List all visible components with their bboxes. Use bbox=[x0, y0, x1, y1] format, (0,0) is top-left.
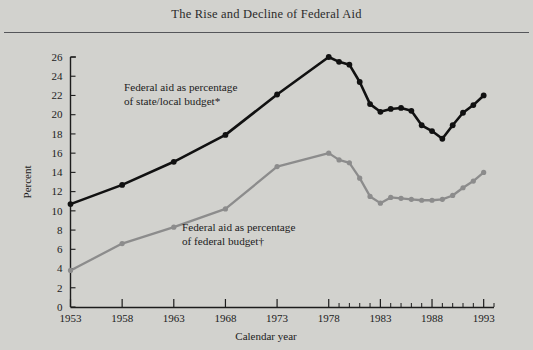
data-point bbox=[450, 122, 456, 128]
data-point bbox=[120, 241, 125, 246]
data-point bbox=[378, 201, 383, 206]
y-tick-label: 4 bbox=[57, 262, 63, 274]
data-point bbox=[223, 132, 229, 138]
annotation-state-local-line1: Federal aid as percentage bbox=[124, 81, 237, 93]
y-tick-label: 16 bbox=[52, 147, 64, 159]
x-tick-label: 1978 bbox=[318, 312, 341, 324]
data-point bbox=[440, 197, 445, 202]
data-point bbox=[388, 106, 394, 112]
data-point bbox=[119, 182, 125, 188]
annotation-federal-line1: Federal aid as percentage bbox=[182, 221, 295, 233]
data-point bbox=[460, 185, 465, 190]
data-point bbox=[223, 206, 228, 211]
x-tick-label: 1988 bbox=[421, 312, 444, 324]
data-point bbox=[429, 128, 435, 134]
x-tick-label: 1958 bbox=[111, 312, 134, 324]
chart-plot-area: 02468101214161820222426 1953195819631968… bbox=[0, 0, 533, 350]
data-point bbox=[274, 92, 280, 98]
data-point bbox=[471, 178, 476, 183]
y-tick-label: 0 bbox=[57, 301, 63, 313]
data-point bbox=[398, 196, 403, 201]
annotation-state-local-line2: of state/local budget* bbox=[124, 95, 221, 107]
data-point bbox=[377, 109, 383, 115]
data-point bbox=[481, 93, 487, 99]
data-point bbox=[398, 105, 404, 111]
data-point bbox=[347, 160, 352, 165]
data-point bbox=[367, 194, 372, 199]
data-point bbox=[460, 110, 466, 116]
y-tick-label: 12 bbox=[52, 185, 63, 197]
data-point bbox=[367, 101, 373, 107]
y-tick-label: 10 bbox=[52, 205, 64, 217]
data-point bbox=[409, 197, 414, 202]
data-point bbox=[346, 62, 352, 68]
data-point bbox=[419, 122, 425, 128]
x-tick-label: 1963 bbox=[163, 312, 186, 324]
x-axis-ticks bbox=[71, 299, 495, 307]
data-point bbox=[408, 108, 414, 114]
x-axis-tick-labels: 195319581963196819731978198319881993 bbox=[60, 312, 496, 324]
data-point bbox=[68, 201, 74, 207]
y-tick-label: 26 bbox=[52, 51, 64, 63]
data-point bbox=[326, 54, 332, 60]
data-point bbox=[388, 195, 393, 200]
data-point bbox=[481, 170, 486, 175]
data-point bbox=[419, 198, 424, 203]
y-axis-title: Percent bbox=[21, 166, 33, 199]
x-axis-title: Calendar year bbox=[235, 330, 297, 342]
figure-container: The Rise and Decline of Federal Aid 0246… bbox=[0, 0, 533, 350]
y-tick-label: 14 bbox=[52, 166, 64, 178]
y-tick-label: 2 bbox=[57, 282, 63, 294]
x-tick-label: 1993 bbox=[473, 312, 496, 324]
data-point bbox=[274, 164, 279, 169]
series-line bbox=[71, 153, 484, 270]
x-tick-label: 1953 bbox=[60, 312, 83, 324]
data-point bbox=[357, 79, 363, 85]
data-point bbox=[336, 59, 342, 65]
y-tick-label: 20 bbox=[52, 108, 64, 120]
y-tick-label: 18 bbox=[52, 128, 64, 140]
annotation-federal-line2: of federal budget† bbox=[182, 235, 264, 247]
series-federal bbox=[68, 151, 486, 274]
data-point bbox=[439, 136, 445, 142]
y-tick-label: 24 bbox=[52, 70, 64, 82]
data-point bbox=[429, 198, 434, 203]
data-point bbox=[171, 225, 176, 230]
x-tick-label: 1968 bbox=[214, 312, 237, 324]
y-axis-tick-labels: 02468101214161820222426 bbox=[52, 51, 64, 313]
y-tick-label: 8 bbox=[57, 224, 63, 236]
data-point bbox=[336, 157, 341, 162]
x-tick-label: 1973 bbox=[266, 312, 289, 324]
data-point bbox=[470, 102, 476, 108]
data-point bbox=[171, 159, 177, 165]
data-point bbox=[450, 193, 455, 198]
data-point bbox=[357, 176, 362, 181]
data-point bbox=[68, 268, 73, 273]
series-line bbox=[71, 57, 484, 204]
data-point bbox=[326, 151, 331, 156]
x-tick-label: 1983 bbox=[369, 312, 392, 324]
y-tick-label: 22 bbox=[52, 89, 63, 101]
series-state-local bbox=[68, 54, 487, 207]
y-tick-label: 6 bbox=[57, 243, 63, 255]
